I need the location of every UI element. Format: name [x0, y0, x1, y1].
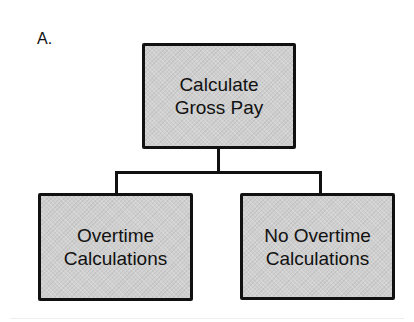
child-node-no-overtime-calculations: No Overtime Calculations — [240, 193, 395, 300]
root-node-line2: Gross Pay — [175, 96, 264, 119]
child-node-text: No Overtime Calculations — [264, 224, 371, 270]
child-node-text: Overtime Calculations — [64, 224, 168, 270]
diagram-label: A. — [37, 30, 52, 48]
root-node-text: Calculate Gross Pay — [175, 73, 264, 119]
connector-horizontal — [115, 171, 322, 174]
child-node-line2: Calculations — [64, 247, 168, 270]
child-node-line1: Overtime — [64, 224, 168, 247]
child-node-line2: Calculations — [264, 247, 371, 270]
child-node-line1: No Overtime — [264, 224, 371, 247]
page-divider — [10, 318, 404, 319]
root-node-line1: Calculate — [175, 73, 264, 96]
child-node-overtime-calculations: Overtime Calculations — [38, 193, 193, 301]
connector-right-down — [319, 171, 322, 194]
connector-root-down — [217, 148, 220, 173]
connector-left-down — [115, 171, 118, 194]
root-node-calculate-gross-pay: Calculate Gross Pay — [142, 43, 296, 149]
